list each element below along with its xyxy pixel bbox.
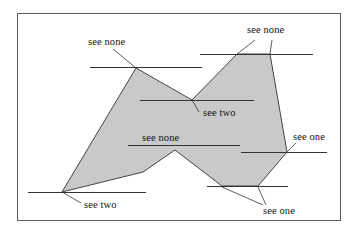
label-see-none-top-left: see none (88, 37, 125, 48)
label-see-none-middle: see none (142, 133, 179, 144)
label-see-two-upper: see two (203, 108, 235, 119)
label-see-none-top-right: see none (247, 25, 284, 36)
label-see-one-right: see one (293, 132, 325, 143)
visibility-polygon-figure: see nonesee nonesee twosee nonesee onese… (0, 0, 355, 233)
figure-canvas (0, 0, 355, 233)
label-see-two-bottom-left: see two (84, 200, 116, 211)
label-see-one-bottom-right: see one (263, 206, 295, 217)
